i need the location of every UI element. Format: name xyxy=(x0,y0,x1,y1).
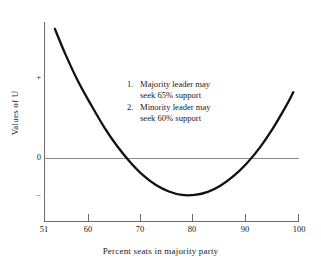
chart-annotation: 1. Majority leader may seek 65% support … xyxy=(127,79,211,125)
y-tick-label-plus: + xyxy=(30,72,41,82)
annotation-line-1b: seek 65% support xyxy=(140,90,210,101)
annotation-text-1: Majority leader may seek 65% support xyxy=(140,79,210,102)
annotation-line-1a: Majority leader may xyxy=(140,79,210,89)
x-tick-label-70: 70 xyxy=(127,224,153,234)
annotation-text-2: Minority leader may seek 60% support xyxy=(140,102,211,125)
y-tick-label-zero: 0 xyxy=(30,152,41,162)
annotation-number-2: 2. xyxy=(127,102,140,113)
annotation-line-2b: seek 60% support xyxy=(140,113,211,124)
annotation-item-2: 2. Minority leader may seek 60% support xyxy=(127,102,211,125)
x-axis-ticks xyxy=(45,214,299,222)
y-tick-label-minus: − xyxy=(30,190,41,200)
x-tick-label-90: 90 xyxy=(232,224,258,234)
annotation-number-1: 1. xyxy=(127,79,140,90)
annotation-item-1: 1. Majority leader may seek 65% support xyxy=(127,79,211,102)
x-tick-label-51: 51 xyxy=(31,224,57,234)
x-tick-label-60: 60 xyxy=(75,224,101,234)
x-axis-title: Percent seats in majority party xyxy=(0,246,321,256)
x-tick-label-80: 80 xyxy=(179,224,205,234)
annotation-line-2a: Minority leader may xyxy=(140,102,211,112)
y-axis-title: Values of U xyxy=(10,66,20,160)
x-tick-label-100: 100 xyxy=(286,224,312,234)
chart-figure: + 0 − 51 60 70 80 90 100 Percent seats i… xyxy=(0,0,321,266)
